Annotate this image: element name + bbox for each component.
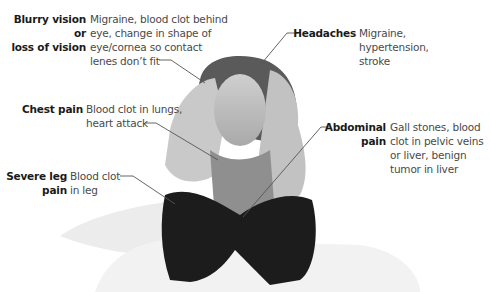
annotation-label-chest-pain: Chest pain — [22, 102, 83, 116]
face — [214, 74, 266, 146]
annotation-label-abdominal-pain: Abdominal pain — [325, 120, 386, 148]
annotation-desc-abdominal-pain: Gall stones, blood clot in pelvic veins … — [390, 120, 483, 176]
annotation-label-severe-leg-pain: Severe leg pain — [6, 169, 67, 197]
annotation-desc-headaches: Migraine, hypertension, stroke — [359, 26, 429, 68]
annotation-desc-severe-leg-pain: Blood clot in leg — [70, 169, 120, 197]
annotation-desc-chest-pain: Blood clot in lungs, heart attack — [86, 102, 182, 130]
annotation-label-headaches: Headaches — [293, 26, 356, 40]
annotation-desc-blurry-vision: Migraine, blood clot behind eye, change … — [90, 12, 228, 68]
annotation-label-blurry-vision: Blurry vision or loss of vision — [0, 12, 86, 54]
